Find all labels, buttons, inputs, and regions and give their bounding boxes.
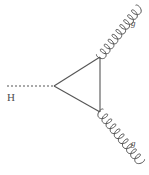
gluon-upper-label: g — [131, 19, 136, 28]
gluon-lower-coil — [98, 109, 145, 164]
diagram-canvas — [0, 0, 149, 175]
quark-loop-top-edge — [54, 57, 100, 86]
gluon-upper-coil — [96, 5, 141, 59]
gluon-lower-label: g — [131, 139, 136, 148]
quark-loop-bottom-edge — [54, 86, 100, 112]
higgs-label: H — [7, 92, 15, 103]
feynman-diagram-figure: H g g — [0, 0, 149, 175]
